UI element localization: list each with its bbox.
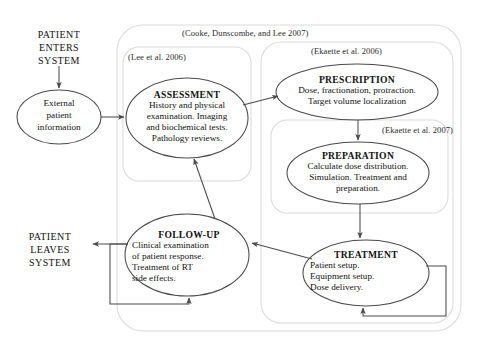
prescription-line-1: Dose, fractionation, protraction. [267, 85, 447, 96]
assessment-line-2: examination. Imaging [122, 111, 252, 122]
treatment-line-3: Dose delivery. [296, 282, 436, 293]
node-label-assessment: ASSESSMENT History and physical examinat… [122, 89, 252, 144]
container-label-ekaette-2007: (Ekaette et al. 2007) [382, 125, 453, 135]
treatment-title: TREATMENT [296, 249, 436, 260]
label-patient-leaves-system: PATIENT LEAVES SYSTEM [10, 230, 90, 270]
external-line-3: information [9, 122, 109, 134]
follow-up-line-1: Clinical examination [124, 240, 254, 251]
container-label-ekaette-2006: (Ekaette et al. 2006) [311, 46, 382, 56]
follow-up-title: FOLLOW-UP [124, 229, 254, 240]
follow-up-line-2: of patient response. [124, 251, 254, 262]
container-label-lee-2006: (Lee et al. 2006) [128, 52, 186, 62]
treatment-line-2: Equipment setup. [296, 271, 436, 282]
node-label-external-patient-information: External patient information [9, 98, 109, 134]
treatment-line-1: Patient setup. [296, 260, 436, 271]
preparation-line-3: preparation. [283, 183, 433, 194]
label-patient-enters-system: PATIENT ENTERS SYSTEM [19, 28, 99, 68]
assessment-line-4: Pathology reviews. [122, 133, 252, 144]
preparation-line-1: Calculate dose distribution. [283, 161, 433, 172]
follow-up-line-4: side effects. [124, 273, 254, 284]
patient-enters-line-2: ENTERS [39, 42, 79, 53]
patient-enters-line-3: SYSTEM [38, 55, 80, 66]
prescription-title: PRESCRIPTION [267, 74, 447, 85]
external-line-1: External [9, 98, 109, 110]
assessment-title: ASSESSMENT [122, 89, 252, 100]
patient-enters-line-1: PATIENT [38, 29, 80, 40]
preparation-title: PREPARATION [283, 150, 433, 161]
node-label-prescription: PRESCRIPTION Dose, fractionation, protra… [267, 74, 447, 107]
patient-leaves-line-1: PATIENT [29, 231, 71, 242]
edge-followup-to-assessment [194, 159, 215, 219]
prescription-line-2: Target volume localization [267, 96, 447, 107]
external-line-2: patient [9, 110, 109, 122]
patient-leaves-line-2: LEAVES [30, 244, 69, 255]
assessment-line-3: and biochemical tests. [122, 122, 252, 133]
container-label-cooke-2007: (Cooke, Dunscombe, and Lee 2007) [182, 28, 308, 38]
assessment-line-1: History and physical [122, 100, 252, 111]
node-label-follow-up: FOLLOW-UP Clinical examination of patien… [124, 229, 254, 284]
preparation-line-2: Simulation. Treatment and [283, 172, 433, 183]
patient-leaves-line-3: SYSTEM [29, 257, 71, 268]
diagram-canvas: (Cooke, Dunscombe, and Lee 2007) (Lee et… [0, 0, 493, 349]
node-label-preparation: PREPARATION Calculate dose distribution.… [283, 150, 433, 194]
follow-up-line-3: Treatment of RT [124, 262, 254, 273]
node-label-treatment: TREATMENT Patient setup. Equipment setup… [296, 249, 436, 293]
